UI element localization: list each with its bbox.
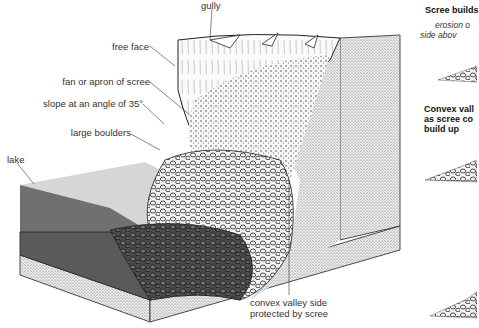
mini-scree-3 <box>430 292 477 318</box>
mini-scree-1 <box>438 66 477 82</box>
panel2-title-line2: as scree co <box>424 114 473 124</box>
label-free-face: free face <box>105 41 149 52</box>
label-convex-valley-side: convex valley side <box>250 297 327 308</box>
panel1-title: Scree builds <box>425 5 479 15</box>
label-large-boulders: large boulders <box>55 127 131 138</box>
label-gully: gully <box>201 0 221 11</box>
panel1-note-line1: erosion o <box>435 20 477 30</box>
label-slope-angle: slope at an angle of 35° <box>20 98 143 109</box>
label-fan-of-scree: fan or apron of scree <box>40 76 150 87</box>
label-protected-by-scree: protected by scree <box>250 308 328 319</box>
label-lake: lake <box>7 154 24 165</box>
panel2-title-line1: Convex vall <box>424 104 474 114</box>
panel2-title-line3: build up <box>424 124 459 134</box>
panel1-note-line2: side abov <box>420 30 477 40</box>
mini-scree-2 <box>425 160 477 182</box>
